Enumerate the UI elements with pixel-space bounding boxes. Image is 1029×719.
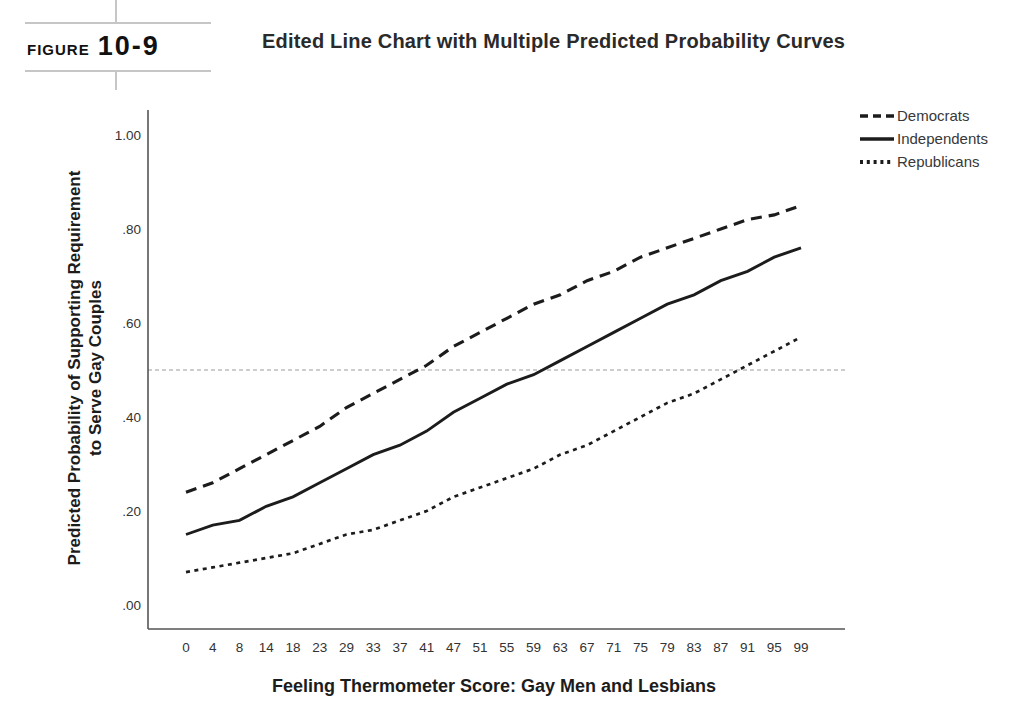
- x-tick-label: 79: [660, 640, 675, 655]
- x-tick-label: 87: [713, 640, 728, 655]
- legend-swatch-solid-icon: [859, 132, 896, 146]
- legend-entry-democrats: Democrats: [859, 105, 988, 126]
- x-tick-label: 95: [767, 640, 782, 655]
- curve-democrats: [186, 206, 801, 493]
- x-tick-label: 59: [526, 640, 541, 655]
- figure-page: FIGURE 10-9 Edited Line Chart with Multi…: [0, 0, 1029, 719]
- y-tick-label: .40: [122, 410, 141, 425]
- x-tick-label: 47: [446, 640, 461, 655]
- x-tick-label: 51: [473, 640, 488, 655]
- curve-republicans: [186, 337, 801, 572]
- x-tick-label: 33: [366, 640, 381, 655]
- x-tick-label: 4: [209, 640, 217, 655]
- x-tick-label: 0: [182, 640, 190, 655]
- x-tick-label: 83: [687, 640, 702, 655]
- y-axis-title-line1: Predicted Probability of Supporting Requ…: [64, 108, 85, 628]
- x-tick-label: 14: [259, 640, 275, 655]
- x-tick-label: 41: [419, 640, 434, 655]
- legend: DemocratsIndependentsRepublicans: [859, 105, 988, 172]
- legend-swatch-long-dash-icon: [859, 109, 896, 123]
- x-tick-label: 67: [580, 640, 595, 655]
- legend-label: Independents: [897, 130, 988, 147]
- legend-entry-independents: Independents: [859, 128, 988, 149]
- legend-label: Democrats: [897, 107, 970, 124]
- y-tick-label: .60: [122, 316, 141, 331]
- legend-swatch-dot-icon: [859, 155, 896, 169]
- y-tick-label: .20: [122, 504, 141, 519]
- x-tick-label: 37: [392, 640, 407, 655]
- y-axis-title-line2: to Serve Gay Couples: [85, 108, 106, 628]
- x-tick-label: 29: [339, 640, 354, 655]
- y-tick-label: .00: [122, 598, 141, 613]
- y-axis-title: Predicted Probability of Supporting Requ…: [64, 108, 108, 628]
- curve-independents: [186, 248, 801, 535]
- y-tick-label: 1.00: [115, 128, 141, 143]
- x-tick-label: 8: [236, 640, 244, 655]
- y-tick-label: .80: [122, 222, 141, 237]
- x-axis-title: Feeling Thermometer Score: Gay Men and L…: [244, 676, 744, 697]
- x-tick-label: 23: [312, 640, 327, 655]
- x-tick-label: 18: [285, 640, 300, 655]
- x-tick-label: 71: [606, 640, 621, 655]
- x-tick-label: 55: [499, 640, 514, 655]
- x-tick-label: 99: [793, 640, 808, 655]
- x-tick-label: 91: [740, 640, 755, 655]
- x-tick-label: 63: [553, 640, 568, 655]
- legend-entry-republicans: Republicans: [859, 151, 988, 172]
- x-tick-label: 75: [633, 640, 648, 655]
- legend-label: Republicans: [897, 153, 980, 170]
